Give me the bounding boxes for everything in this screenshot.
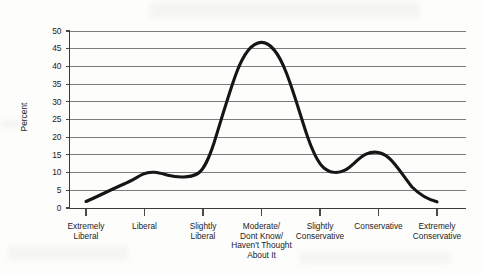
y-tick-labels-group: 05101520253035404550 (52, 26, 62, 213)
y-tick-label: 40 (52, 61, 62, 71)
x-tick-label: SlightlyLiberal (190, 221, 218, 241)
x-tick-label: Liberal (132, 221, 157, 231)
y-axis-title: Percent (19, 102, 29, 132)
y-tick-label: 35 (52, 79, 62, 89)
y-tick-label: 15 (52, 150, 62, 160)
y-tick-label: 45 (52, 43, 62, 53)
y-tick-label: 25 (52, 114, 62, 124)
y-tick-label: 30 (52, 97, 62, 107)
y-tick-label: 5 (57, 185, 62, 195)
x-tick-label: ExtremelyLiberal (68, 221, 106, 241)
y-tick-label: 20 (52, 132, 62, 142)
y-tick-label: 50 (52, 26, 62, 36)
x-tick-label: ExtremelyConservative (413, 221, 462, 241)
x-tick-labels-group: ExtremelyLiberalLiberalSlightlyLiberalMo… (68, 221, 462, 260)
x-tick-label: Moderate/Dont Know/Haven't ThoughtAbout … (231, 221, 292, 260)
chart-container: 05101520253035404550 Percent ExtremelyLi… (0, 0, 483, 276)
line-chart: 05101520253035404550 Percent ExtremelyLi… (0, 0, 483, 276)
x-tick-label: SlightlyConservative (296, 221, 345, 241)
y-tick-label: 10 (52, 167, 62, 177)
x-tick-label: Conservative (354, 221, 403, 231)
y-tick-label: 0 (57, 203, 62, 213)
x-tick-marks-group (86, 209, 437, 216)
